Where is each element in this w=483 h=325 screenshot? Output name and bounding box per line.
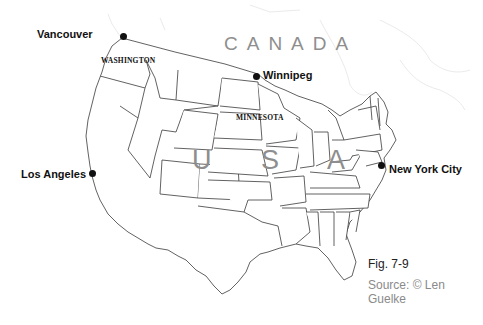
city-marker-vancouver <box>120 33 127 40</box>
city-label-los-angeles: Los Angeles <box>21 168 86 180</box>
city-marker-los-angeles <box>89 170 96 177</box>
city-marker-new-york-city <box>378 162 385 169</box>
country-label-usa: U S A <box>192 145 366 176</box>
city-label-winnipeg: Winnipeg <box>263 69 312 81</box>
city-label-new-york-city: New York City <box>389 163 462 175</box>
state-label-washington: WASHINGTON <box>101 56 155 65</box>
city-label-vancouver: Vancouver <box>37 28 93 40</box>
source-credit: Source: © Len Guelke <box>368 278 483 306</box>
figure-number: Fig. 7-9 <box>368 257 409 271</box>
map-figure: CANADA U S A WASHINGTON MINNESOTA Vancou… <box>0 0 483 325</box>
country-label-canada: CANADA <box>224 33 357 55</box>
state-label-minnesota: MINNESOTA <box>236 113 284 122</box>
city-marker-winnipeg <box>253 73 260 80</box>
